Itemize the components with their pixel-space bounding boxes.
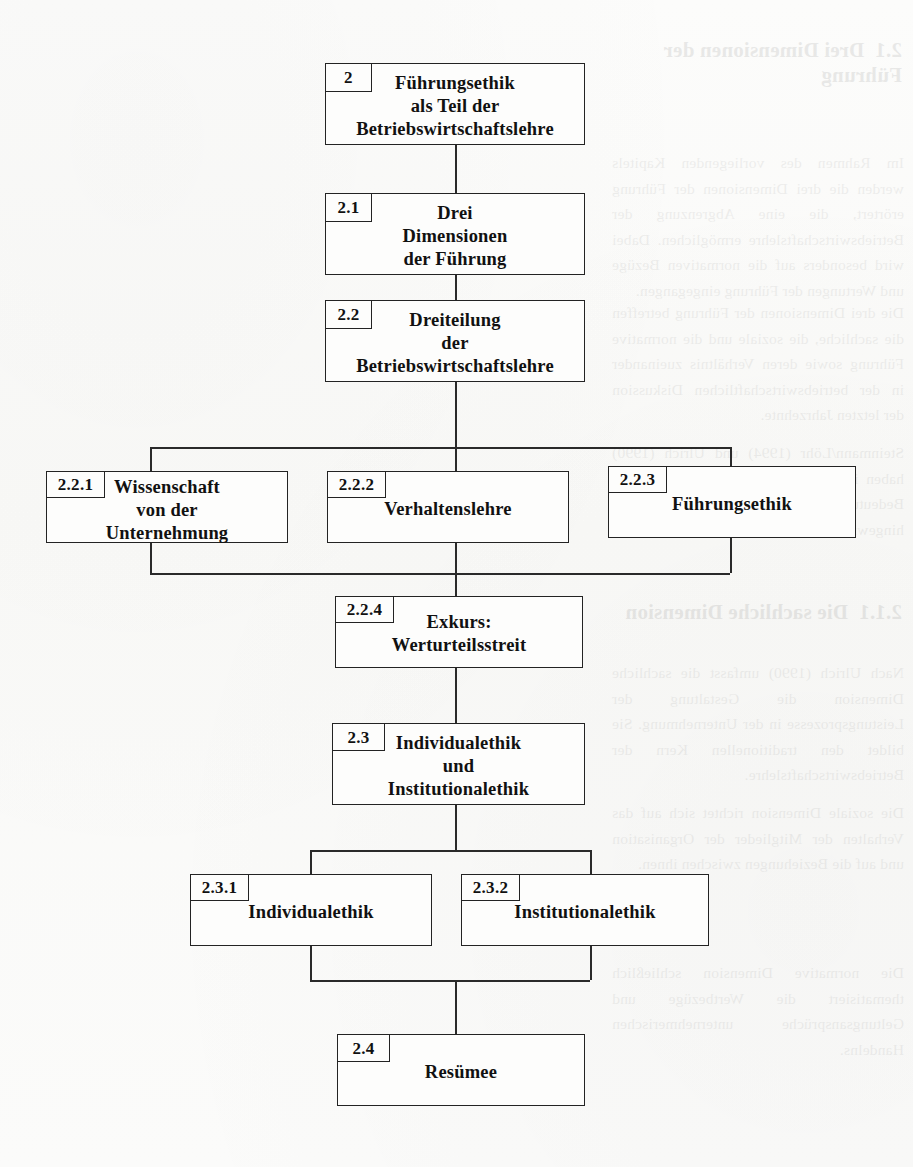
node-title-n24: Resümee	[338, 1061, 584, 1084]
connector-line	[150, 447, 152, 471]
bleed-through-text: 2.1 Drei Dimensionen der Führung	[612, 38, 902, 88]
node-number-n231: 2.3.1	[191, 875, 249, 901]
node-number-n24: 2.4	[338, 1035, 390, 1062]
bleed-through-text: Die drei Dimensionen der Führung betreff…	[612, 300, 904, 428]
connector-line	[730, 447, 732, 466]
connector-line	[310, 850, 312, 874]
node-title-n222: Verhaltenslehre	[328, 498, 568, 521]
connector-line	[455, 668, 457, 723]
node-box-n221[interactable]: 2.2.1Wissenschaft von der Unternehmung	[46, 471, 288, 543]
node-box-n21[interactable]: 2.1Drei Dimensionen der Führung	[325, 193, 585, 275]
connector-line	[455, 805, 457, 850]
bleed-through-text: Nach Ulrich (1990) umfasst die sachliche…	[612, 660, 904, 788]
connector-line	[590, 946, 592, 980]
connector-line	[310, 980, 590, 982]
connector-line	[310, 946, 312, 980]
node-title-n223: Führungsethik	[609, 493, 855, 516]
node-box-n222[interactable]: 2.2.2Verhaltenslehre	[327, 471, 569, 543]
connector-line	[150, 543, 152, 573]
node-title-n224: Exkurs: Werturteilsstreit	[336, 611, 582, 657]
node-title-n22: Dreiteilung der Betriebswirtschaftslehre	[326, 309, 584, 378]
node-box-n23[interactable]: 2.3Individualethik und Institutionalethi…	[332, 723, 585, 805]
node-title-n23: Individualethik und Institutionalethik	[333, 732, 584, 801]
connector-line	[150, 573, 730, 575]
node-title-n21: Drei Dimensionen der Führung	[326, 202, 584, 271]
node-box-n2[interactable]: 2Führungsethik als Teil der Betriebswirt…	[325, 63, 585, 145]
node-title-n2: Führungsethik als Teil der Betriebswirts…	[326, 72, 584, 141]
node-box-n232[interactable]: 2.3.2Institutionalethik	[461, 874, 709, 946]
node-title-n232: Institutionalethik	[462, 901, 708, 924]
connector-line	[455, 980, 457, 1034]
node-box-n224[interactable]: 2.2.4Exkurs: Werturteilsstreit	[335, 596, 583, 668]
connector-line	[150, 447, 730, 449]
bleed-through-text: 2.1.1 Die sachliche Dimension	[612, 600, 902, 625]
connector-line	[455, 145, 457, 193]
connector-line	[310, 850, 590, 852]
connector-line	[455, 447, 457, 471]
node-box-n223[interactable]: 2.2.3Führungsethik	[608, 466, 856, 538]
connector-line	[455, 543, 457, 573]
bleed-through-text: Im Rahmen des vorliegenden Kapitels werd…	[612, 150, 904, 303]
node-number-n222: 2.2.2	[328, 472, 386, 498]
node-title-n231: Individualethik	[191, 901, 431, 924]
diagram-page: 2.1 Drei Dimensionen der FührungIm Rahme…	[0, 0, 913, 1167]
connector-line	[590, 850, 592, 874]
node-number-n223: 2.2.3	[609, 467, 667, 493]
node-number-n232: 2.3.2	[462, 875, 520, 901]
bleed-through-text: Die normative Dimension schließlich them…	[612, 960, 904, 1062]
connector-line	[730, 538, 732, 573]
node-box-n231[interactable]: 2.3.1Individualethik	[190, 874, 432, 946]
connector-line	[455, 275, 457, 300]
node-box-n24[interactable]: 2.4Resümee	[337, 1034, 585, 1106]
connector-line	[455, 382, 457, 447]
connector-line	[455, 573, 457, 596]
node-title-n221: Wissenschaft von der Unternehmung	[47, 476, 287, 545]
node-box-n22[interactable]: 2.2Dreiteilung der Betriebswirtschaftsle…	[325, 300, 585, 382]
bleed-through-text: Die soziale Dimension richtet sich auf d…	[612, 800, 904, 877]
